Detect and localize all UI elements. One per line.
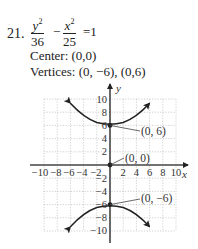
- x-axis-label: x: [181, 168, 187, 180]
- x-tick: −6: [63, 167, 74, 178]
- x-tick: −8: [50, 167, 61, 178]
- x-tick: −10: [32, 167, 48, 178]
- label-vertex-lower: (0, −6): [141, 192, 173, 205]
- y-axis-label: y: [115, 82, 121, 94]
- x-tick: 6: [147, 167, 152, 178]
- y-tick: 4: [102, 133, 108, 144]
- x-tick: 10: [171, 167, 182, 178]
- y-tick: 2: [102, 146, 107, 157]
- x-tick: −4: [76, 167, 88, 178]
- y-tick: −6: [96, 199, 107, 210]
- leader-line: [110, 158, 124, 165]
- leader-line: [110, 125, 140, 131]
- y-tick: −4: [96, 186, 108, 197]
- label-vertex-upper: (0, 6): [141, 125, 166, 138]
- x-tick: 4: [134, 167, 140, 178]
- y-tick: 10: [97, 94, 108, 105]
- hyperbola-graph: x y −10 −8 −6 −4 −2 2 4 6 8 10 10 8 6 4 …: [0, 0, 198, 249]
- y-tick: 8: [102, 107, 107, 118]
- y-tick: −10: [91, 225, 107, 236]
- y-tick: 6: [102, 120, 107, 131]
- y-tick: −2: [96, 173, 107, 184]
- x-tick: 8: [160, 167, 165, 178]
- leader-line: [110, 199, 140, 205]
- x-tick: 2: [121, 167, 126, 178]
- label-center: (0, 0): [125, 152, 150, 165]
- y-tick: −8: [96, 212, 107, 223]
